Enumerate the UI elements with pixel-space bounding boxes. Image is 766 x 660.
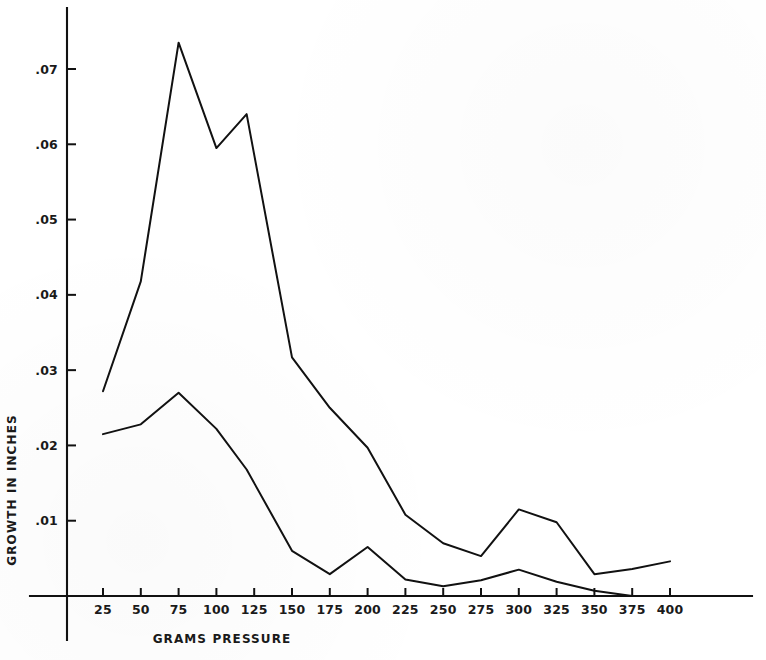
x-axis-tick-labels: 2550751001251501752002252502753003253503… — [94, 602, 683, 617]
x-tick-label: 275 — [468, 602, 495, 617]
x-tick-label: 125 — [241, 602, 268, 617]
x-tick-label: 350 — [581, 602, 608, 617]
series-line-upper-curve — [103, 43, 670, 575]
y-tick-label: .04 — [35, 287, 58, 302]
x-axis-title: GRAMS PRESSURE — [153, 632, 292, 646]
y-axis-ticks — [67, 69, 76, 521]
y-axis-tick-labels: .01.02.03.04.05.06.07 — [35, 62, 58, 529]
x-tick-label: 400 — [657, 602, 684, 617]
series-line-lower-curve — [103, 393, 670, 596]
y-tick-label: .06 — [35, 137, 58, 152]
x-tick-label: 75 — [170, 602, 188, 617]
y-axis-title: GROWTH IN INCHES — [5, 414, 19, 565]
y-tick-label: .05 — [35, 212, 58, 227]
x-tick-label: 150 — [279, 602, 306, 617]
y-tick-label: .07 — [35, 62, 58, 77]
x-tick-label: 300 — [505, 602, 532, 617]
x-tick-label: 375 — [619, 602, 646, 617]
data-series-group — [103, 43, 670, 596]
x-tick-label: 100 — [203, 602, 230, 617]
y-tick-label: .02 — [35, 438, 58, 453]
y-tick-label: .03 — [35, 363, 58, 378]
line-chart-canvas: .01.02.03.04.05.06.07 255075100125150175… — [0, 0, 766, 660]
x-tick-label: 250 — [430, 602, 457, 617]
x-tick-label: 325 — [543, 602, 570, 617]
x-tick-label: 25 — [94, 602, 112, 617]
x-tick-label: 200 — [354, 602, 381, 617]
chart-figure: .01.02.03.04.05.06.07 255075100125150175… — [0, 0, 766, 660]
x-tick-label: 175 — [316, 602, 343, 617]
x-tick-label: 50 — [132, 602, 150, 617]
y-tick-label: .01 — [35, 513, 58, 528]
x-tick-label: 225 — [392, 602, 419, 617]
